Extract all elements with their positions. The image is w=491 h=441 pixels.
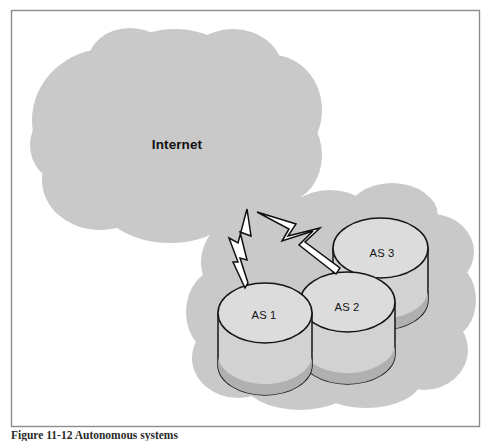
- as2-label: AS 2: [334, 301, 359, 313]
- internet-cloud-label: Internet: [152, 137, 203, 152]
- figure-container: Internet: [0, 0, 491, 441]
- figure-caption-clip: Figure 11-12 Autonomous systems: [11, 430, 481, 441]
- node-as2[interactable]: AS 2: [300, 272, 395, 384]
- node-as1[interactable]: AS 1: [218, 283, 312, 395]
- as3-label: AS 3: [369, 247, 394, 259]
- network-diagram: Internet: [0, 0, 491, 441]
- internet-cloud: Internet: [30, 28, 322, 243]
- as1-label: AS 1: [251, 309, 276, 321]
- figure-caption: Figure 11-12 Autonomous systems: [11, 430, 178, 441]
- internet-cloud-shape: [30, 28, 322, 243]
